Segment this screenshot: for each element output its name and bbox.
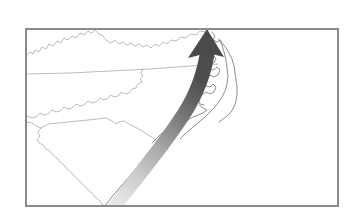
storm-track-map-figure: Storm track map of the Carolinas Outline…	[0, 0, 359, 219]
map-contents	[26, 29, 338, 212]
map-canvas	[0, 0, 359, 219]
